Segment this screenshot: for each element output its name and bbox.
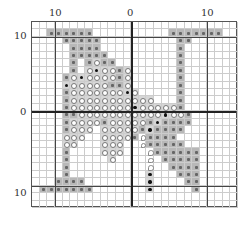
stitch-cell (101, 89, 109, 96)
grid-cell (154, 201, 162, 208)
stitch-cell (116, 96, 124, 103)
stitch-cell (101, 67, 109, 74)
grid-cell (223, 148, 231, 155)
grid-cell (40, 141, 48, 148)
grid-cell (116, 44, 124, 51)
grid-cell (124, 171, 132, 178)
stitch-cell (154, 148, 162, 155)
grid-cell (32, 89, 40, 96)
stitch-cell (70, 67, 78, 74)
grid-cell (192, 22, 200, 29)
y-axis-label-top-10: 10 (14, 31, 27, 41)
stitch-cell (85, 67, 93, 74)
stitch-cell (177, 59, 185, 66)
grid-cell (154, 156, 162, 163)
grid-cell (108, 201, 116, 208)
stitch-cell (101, 148, 109, 155)
grid-cell (207, 148, 215, 155)
stitch-cell (169, 163, 177, 170)
stitch-cell (177, 156, 185, 163)
grid-cell (32, 82, 40, 89)
stitch-cell (154, 126, 162, 133)
stitch-cell (124, 134, 132, 141)
grid-cell (85, 141, 93, 148)
stitch-cell (108, 89, 116, 96)
stitch-cell (146, 186, 154, 193)
grid-cell (63, 67, 71, 74)
grid-cell (47, 163, 55, 170)
stitch-cell (78, 37, 86, 44)
grid-cell (63, 59, 71, 66)
stitch-cell (85, 89, 93, 96)
grid-cell (230, 126, 238, 133)
grid-cell (192, 67, 200, 74)
grid-cell (169, 67, 177, 74)
stitch-cell (70, 134, 78, 141)
y-axis-label-center-0: 0 (20, 107, 26, 117)
grid-cell (32, 52, 40, 59)
grid-cell (207, 201, 215, 208)
grid-cell (169, 22, 177, 29)
grid-cell (32, 104, 40, 111)
grid-cell (63, 201, 71, 208)
grid-cell (55, 82, 63, 89)
grid-cell (223, 171, 231, 178)
stitch-cell (185, 148, 193, 155)
stitch-cell (146, 126, 154, 133)
grid-cell (116, 193, 124, 200)
grid-cell (55, 126, 63, 133)
grid-cell (85, 193, 93, 200)
grid-cell (185, 22, 193, 29)
grid-cell (55, 201, 63, 208)
grid-cell (192, 141, 200, 148)
grid-cell (124, 178, 132, 185)
grid-cell (70, 171, 78, 178)
grid-cell (154, 178, 162, 185)
stitch-cell (192, 148, 200, 155)
grid-cell (169, 171, 177, 178)
stitch-cell (116, 104, 124, 111)
grid-cell (162, 67, 170, 74)
grid-cell (177, 178, 185, 185)
grid-cell (185, 201, 193, 208)
grid-cell (192, 126, 200, 133)
grid-cell (215, 193, 223, 200)
stitch-cell (185, 29, 193, 36)
grid-cell (154, 74, 162, 81)
grid-cell (169, 82, 177, 89)
grid-cell (192, 193, 200, 200)
grid-cell (215, 134, 223, 141)
grid-cell (101, 156, 109, 163)
grid-cell (40, 163, 48, 170)
grid-cell (47, 193, 55, 200)
grid-cell (124, 59, 132, 66)
grid-cell (200, 201, 208, 208)
grid-cell (146, 37, 154, 44)
grid-cell (223, 104, 231, 111)
stitch-cell (108, 96, 116, 103)
grid-cell (55, 96, 63, 103)
grid-cell (230, 67, 238, 74)
stitch-cell (169, 104, 177, 111)
grid-cell (32, 74, 40, 81)
grid-cell (47, 96, 55, 103)
grid-cell (40, 126, 48, 133)
grid-cell (139, 148, 147, 155)
grid-cell (32, 22, 40, 29)
grid-cell (139, 201, 147, 208)
grid-cell (230, 148, 238, 155)
grid-cell (116, 52, 124, 59)
grid-cell (40, 89, 48, 96)
grid-cell (223, 178, 231, 185)
stitch-cell (116, 119, 124, 126)
grid-cell (154, 89, 162, 96)
stitch-cell (162, 104, 170, 111)
grid-cell (192, 104, 200, 111)
stitch-cell (93, 119, 101, 126)
grid-cell (78, 156, 86, 163)
grid-cell (139, 163, 147, 170)
stitch-cell (78, 44, 86, 51)
grid-cell (223, 201, 231, 208)
stitch-cell (154, 134, 162, 141)
stitch-cell (78, 119, 86, 126)
